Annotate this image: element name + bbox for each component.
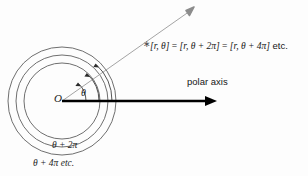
theta-plus-4pi-label: θ + 4π etc. xyxy=(33,159,74,169)
equation-label: [r, θ] = [r, θ + 2π] = [r, θ + 4π] etc. xyxy=(150,41,288,52)
terminal-ray-arrowhead xyxy=(186,7,194,16)
origin-label: O xyxy=(54,93,62,104)
theta-plus-2pi-label: θ + 2π xyxy=(52,141,77,151)
polar-axis-arrowhead xyxy=(205,96,217,106)
equation-equals-1: = xyxy=(169,41,179,51)
polar-axis-label: polar axis xyxy=(187,77,228,87)
theta-arc-1-arrowhead xyxy=(75,82,80,86)
equation-part-3: [r, θ + 4π] xyxy=(230,41,270,51)
equation-part-1: [r, θ] xyxy=(150,41,169,51)
theta-label: θ xyxy=(81,88,86,98)
diagram-canvas: ∗ xyxy=(0,0,308,176)
equation-suffix: etc. xyxy=(270,40,288,51)
theta-arc-3-arrowhead xyxy=(93,63,99,67)
equation-equals-2: = xyxy=(220,41,230,51)
equation-part-2: [r, θ + 2π] xyxy=(180,41,220,51)
polar-coordinate-diagram: ∗ O θ polar axis [r, θ] = [r, θ + 2π] = … xyxy=(0,0,308,176)
